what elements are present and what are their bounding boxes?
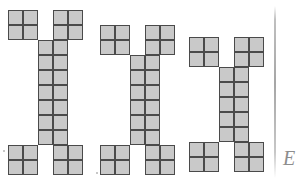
grid-cell [249,142,264,157]
grid-cell [249,52,264,67]
scan-speck [3,150,5,152]
grid-cell [219,127,234,142]
grid-cell [219,67,234,82]
grid-cell [204,52,219,67]
grid-cell [189,52,204,67]
grid-cell [189,142,204,157]
grid-cell [234,67,249,82]
grid-cell [204,37,219,52]
grid-cell [219,97,234,112]
grid-cell [189,157,204,172]
grid-cell [219,112,234,127]
page-edge-line [274,6,276,178]
grid-cell [234,97,249,112]
grid-cell [219,82,234,97]
grid-cell [189,37,204,52]
grid-cell [234,82,249,97]
grid-cell [234,112,249,127]
grid-cell [204,142,219,157]
grid-cell [249,37,264,52]
grid-cell [234,127,249,142]
grid-cell [234,37,249,52]
grid-cell [234,142,249,157]
grid-cell [234,157,249,172]
grid-cell [249,157,264,172]
polyomino-figure-3 [0,0,307,182]
screenshot-canvas: E [0,0,307,182]
handwritten-letter-e: E [283,148,295,168]
grid-cell [204,157,219,172]
scan-speck [96,172,98,174]
grid-cell [234,52,249,67]
